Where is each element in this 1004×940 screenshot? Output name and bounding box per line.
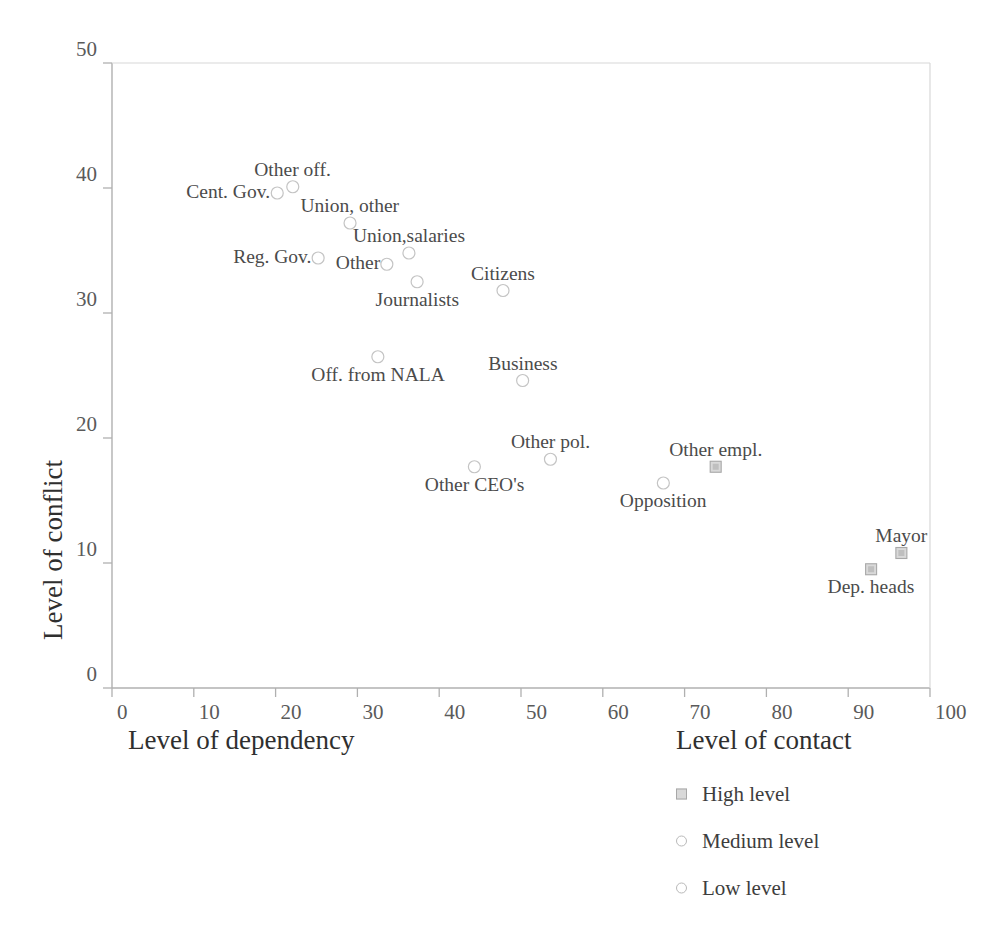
data-point-marker-inner (898, 550, 904, 556)
data-point-marker-circle (312, 252, 324, 264)
data-point-label: Journalists (376, 289, 459, 311)
x-tick-label: 80 (771, 700, 792, 725)
x-tick-label: 100 (935, 700, 967, 725)
data-point-marker-circle (411, 276, 423, 288)
data-point-label: Union,salaries (353, 225, 465, 247)
legend-item-low-level[interactable]: Low level (676, 876, 787, 900)
data-point-label: Opposition (620, 490, 707, 512)
data-point-label: Other pol. (511, 431, 590, 453)
data-point-label: Dep. heads (828, 576, 915, 598)
data-point-label: Cent. Gov. (186, 181, 270, 203)
data-point-marker-circle (468, 461, 480, 473)
legend-square-marker-icon (676, 789, 687, 800)
y-axis-title: Level of conflict (38, 460, 69, 640)
data-point-marker-circle (287, 181, 299, 193)
data-point-marker-circle (517, 375, 529, 387)
data-point-label: Other off. (254, 159, 331, 181)
data-point-label: Mayor (875, 525, 927, 547)
y-tick-label: 30 (52, 287, 97, 312)
data-point-label: Business (488, 353, 557, 375)
data-point-label: Other (336, 252, 380, 274)
x-tick-label: 60 (608, 700, 629, 725)
data-point-marker-circle (271, 187, 283, 199)
x-tick-label: 30 (362, 700, 383, 725)
data-point-label: Citizens (471, 263, 535, 285)
data-point-label: Union, other (301, 195, 400, 217)
data-point-marker-circle (657, 477, 669, 489)
x-tick-label: 50 (526, 700, 547, 725)
legend-item-label: Low level (702, 876, 787, 900)
y-tick-label: 50 (52, 37, 97, 62)
legend-item-label: High level (702, 782, 790, 806)
legend-title: Level of contact (676, 725, 851, 756)
data-point-marker-circle (381, 258, 393, 270)
data-point-marker-circle (372, 351, 384, 363)
data-point-marker-circle (403, 247, 415, 259)
x-tick-label: 70 (690, 700, 711, 725)
data-point-label: Off. from NALA (311, 364, 444, 386)
scatter-chart-figure: 010203040506070809010001020304050 Level … (0, 0, 1004, 940)
data-point-marker-circle (544, 453, 556, 465)
data-point-label: Other empl. (669, 439, 762, 461)
data-point-marker-inner (868, 566, 874, 572)
x-tick-label: 90 (853, 700, 874, 725)
data-point-label: Other CEO's (425, 474, 524, 496)
legend-circle-marker-icon (676, 836, 687, 847)
legend-item-medium-level[interactable]: Medium level (676, 829, 819, 853)
x-tick-label: 10 (199, 700, 220, 725)
plot-canvas (0, 0, 1004, 940)
y-tick-label: 20 (52, 412, 97, 437)
y-tick-label: 40 (52, 162, 97, 187)
y-tick-label: 0 (52, 662, 97, 687)
x-tick-label: 40 (444, 700, 465, 725)
data-point-label: Reg. Gov. (233, 246, 311, 268)
x-tick-label: 0 (117, 700, 128, 725)
x-tick-label: 20 (281, 700, 302, 725)
legend-item-label: Medium level (702, 829, 819, 853)
legend-item-high-level[interactable]: High level (676, 782, 790, 806)
x-axis-title: Level of dependency (128, 725, 354, 756)
data-point-marker-circle (497, 285, 509, 297)
legend-circle-marker-icon (676, 883, 687, 894)
data-point-marker-inner (713, 464, 719, 470)
